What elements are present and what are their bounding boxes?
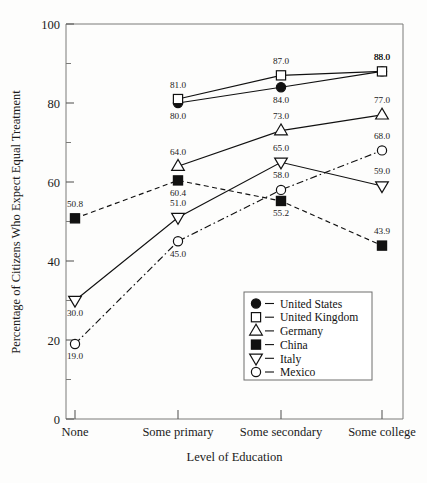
legend-marker [251, 367, 260, 376]
data-point-marker [276, 196, 285, 205]
data-point-marker [276, 71, 285, 80]
y-tick-label-100: 100 [41, 18, 60, 32]
legend-label: Mexico [280, 366, 316, 379]
education-equal-treatment-line-chart: 020406080100NoneSome primarySome seconda… [0, 0, 427, 483]
data-point-marker [376, 108, 389, 119]
data-point-label: 19.0 [67, 351, 83, 361]
y-tick-label-20: 20 [48, 334, 61, 348]
data-point-label: 30.0 [67, 308, 83, 318]
data-point-label: 68.0 [374, 131, 390, 141]
axis-layer: 020406080100NoneSome primarySome seconda… [9, 18, 416, 465]
data-point-label: 55.2 [273, 208, 289, 218]
data-point-label: 80.0 [170, 111, 186, 121]
data-point-label: 51.0 [170, 198, 186, 208]
data-point-marker [173, 176, 182, 185]
data-point-label: 50.8 [67, 199, 83, 209]
data-point-marker [173, 94, 182, 103]
legend-label: United Kingdom [280, 311, 358, 324]
data-point-marker [173, 237, 182, 246]
data-point-label: 59.0 [374, 166, 390, 176]
chart-legend: United StatesUnited KingdomGermanyChinaI… [244, 292, 372, 380]
data-point-marker [69, 296, 82, 307]
data-point-marker [276, 185, 285, 194]
data-point-marker [276, 83, 285, 92]
data-point-label: 81.0 [170, 80, 186, 90]
legend-marker [251, 340, 260, 349]
series-italy [69, 158, 389, 307]
data-point-label: 43.9 [374, 226, 390, 236]
data-point-label: 84.0 [273, 95, 289, 105]
data-point-label: 77.0 [374, 95, 390, 105]
x-tick-label-2: Some secondary [240, 425, 323, 439]
data-point-label: 88.0 [374, 52, 390, 62]
legend-marker [251, 313, 260, 322]
legend-label: Italy [280, 353, 301, 366]
x-tick-label-0: None [61, 425, 89, 439]
legend-label: Germany [280, 325, 323, 338]
x-tick-label-1: Some primary [142, 425, 214, 439]
data-point-label: 60.4 [170, 188, 186, 198]
y-tick-label-40: 40 [48, 255, 61, 269]
legend-label: United States [280, 298, 343, 311]
data-point-marker [70, 214, 79, 223]
data-point-marker [376, 182, 389, 193]
legend-label: China [280, 339, 308, 352]
x-tick-label-3: Some college [348, 425, 416, 439]
data-point-label: 58.0 [273, 170, 289, 180]
chart-page: 020406080100NoneSome primarySome seconda… [0, 0, 427, 483]
data-point-label: 64.0 [170, 147, 186, 157]
legend-marker [251, 299, 260, 308]
data-point-label: 45.0 [170, 249, 186, 259]
data-point-label: 73.0 [273, 111, 289, 121]
data-point-marker [377, 241, 386, 250]
y-tick-label-0: 0 [54, 413, 60, 427]
data-point-label: 87.0 [273, 56, 289, 66]
data-point-marker [377, 146, 386, 155]
data-point-marker [172, 213, 185, 224]
y-tick-label-60: 60 [48, 176, 61, 190]
series-china [70, 176, 386, 250]
y-axis-title: Percentage of Citizens Who Expect Equal … [9, 90, 23, 354]
x-axis-title: Level of Education [187, 450, 284, 464]
data-point-marker [70, 339, 79, 348]
series-line [75, 162, 382, 300]
data-point-marker [377, 67, 386, 76]
y-tick-label-80: 80 [48, 97, 61, 111]
data-point-label: 65.0 [273, 143, 289, 153]
